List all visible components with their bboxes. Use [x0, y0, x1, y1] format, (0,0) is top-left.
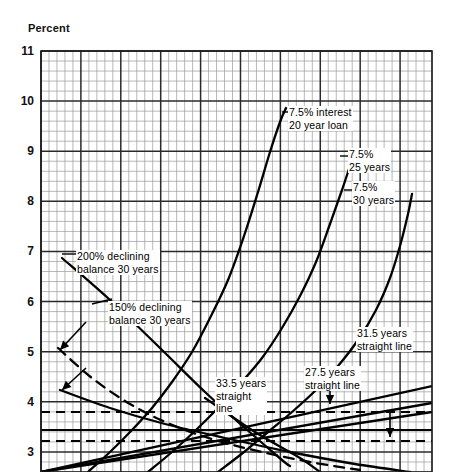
y-tick-label-7: 7: [8, 245, 34, 257]
ann-25-year: 7.5% 25 years: [348, 148, 391, 173]
ann-150-declining: 150% declining balance 30 years: [108, 301, 192, 326]
percent-depreciation-chart: Percent 11109876543 7.5% interest 20 yea…: [0, 0, 455, 472]
y-tick-label-5: 5: [8, 346, 34, 358]
y-tick-label-3: 3: [8, 446, 34, 458]
ann-200-declining: 200% declining balance 30 years: [76, 250, 160, 275]
ann-31-5: 31.5 years straight line: [356, 327, 413, 352]
ann-30-year: 7.5% 30 years: [352, 181, 395, 206]
y-tick-label-9: 9: [8, 145, 34, 157]
y-tick-label-11: 11: [8, 45, 34, 57]
ann-27-5: 27.5 years straight line: [304, 366, 361, 391]
y-tick-label-6: 6: [8, 296, 34, 308]
ann-20-year: 7.5% interest 20 year loan: [288, 106, 353, 131]
y-axis-title: Percent: [28, 22, 70, 34]
y-tick-label-8: 8: [8, 195, 34, 207]
y-tick-label-4: 4: [8, 396, 34, 408]
ann-33-5: 33.5 years straight line: [215, 377, 267, 415]
y-tick-label-10: 10: [8, 95, 34, 107]
